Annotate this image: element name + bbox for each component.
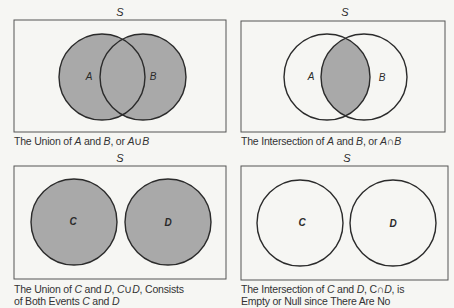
caption-text: and <box>81 135 103 147</box>
caption-text: , or <box>363 135 380 147</box>
panel-union-cd: S C D <box>14 152 226 279</box>
caption-union-ab: The Union of A and B, or A∪B <box>14 135 149 147</box>
panel-intersection-ab: S A B <box>241 6 445 132</box>
caption-text: of Both Events <box>14 295 82 307</box>
caption-text: and <box>82 283 104 295</box>
sample-space-label: S <box>116 152 124 164</box>
set-a-label: A <box>307 71 315 82</box>
caption-line-2: Empty or Null since There Are No <box>241 295 404 307</box>
caption-union-cd: The Union of C and D, C∪D, Consists of B… <box>14 283 184 307</box>
caption-var: C <box>82 295 89 307</box>
set-a-label: A <box>85 71 93 82</box>
caption-var: D <box>357 283 364 295</box>
caption-text: and <box>90 295 112 307</box>
sample-space-label: S <box>341 6 349 18</box>
sample-space-label: S <box>116 6 124 18</box>
caption-line-1: The Union of C and D, C∪D, Consists <box>14 283 184 295</box>
caption-var: D <box>132 283 139 295</box>
caption-intersection-ab: The Intersection of A and B, or A∩B <box>241 135 401 147</box>
set-d-label: D <box>164 217 171 228</box>
caption-var: A <box>380 135 387 147</box>
caption-text: The Intersection of <box>241 283 327 295</box>
set-d-label: D <box>389 218 396 229</box>
venn-diagrams: S A B S A B S C D S C D <box>0 0 454 308</box>
union-symbol: ∪ <box>134 135 142 147</box>
set-c-label: C <box>69 216 77 227</box>
set-b-label: B <box>379 72 386 83</box>
panel-union-ab: S A B <box>14 6 226 132</box>
caption-var: D <box>112 295 119 307</box>
caption-text: , is <box>392 283 405 295</box>
caption-text: and <box>334 135 356 147</box>
caption-var: D <box>384 283 391 295</box>
caption-text: The Intersection of <box>241 135 327 147</box>
caption-intersection-cd: The Intersection of C and D, C∩D, is Emp… <box>241 283 404 307</box>
set-c-label: C <box>298 217 306 228</box>
caption-var: B <box>142 135 149 147</box>
caption-var: D <box>104 283 111 295</box>
caption-text: The Union of <box>14 135 74 147</box>
caption-text: , Consists <box>140 283 184 295</box>
caption-text: , C <box>364 283 377 295</box>
sample-space-label: S <box>343 152 351 164</box>
caption-var: B <box>356 135 363 147</box>
set-b-label: B <box>150 71 157 82</box>
caption-var: C <box>74 283 81 295</box>
caption-var: B <box>394 135 401 147</box>
panel-intersection-cd: S C D <box>241 152 448 280</box>
caption-line-1: The Intersection of C and D, C∩D, is <box>241 283 404 295</box>
caption-line-2: of Both Events C and D <box>14 295 184 307</box>
caption-text: The Union of <box>14 283 74 295</box>
caption-text: , or <box>110 135 127 147</box>
caption-var: A <box>327 135 334 147</box>
caption-text: and <box>334 283 356 295</box>
sample-space-frame <box>241 166 448 280</box>
